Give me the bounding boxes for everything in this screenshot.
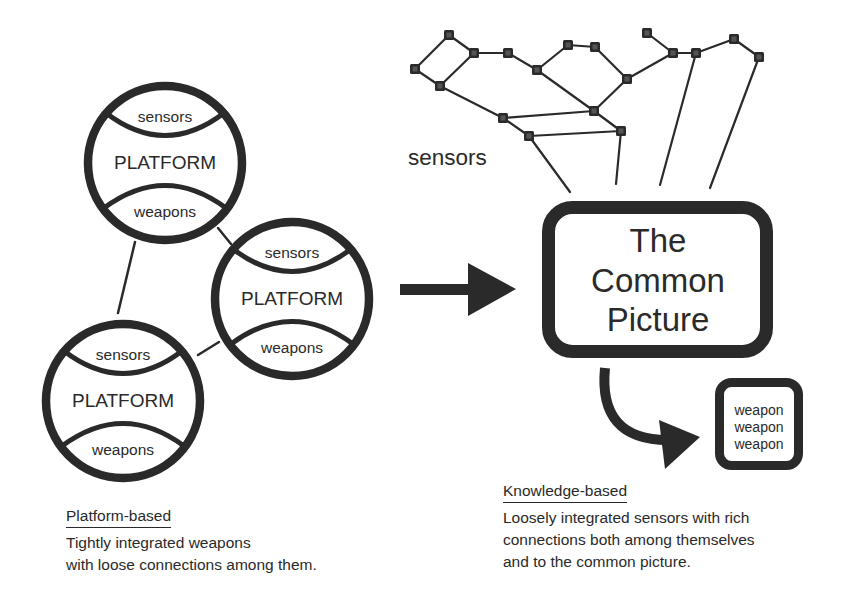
sensors-label: sensors bbox=[265, 244, 320, 261]
sensor-node-core bbox=[593, 45, 598, 50]
sensor-to-picture-link bbox=[710, 57, 759, 188]
sensor-node-core bbox=[535, 68, 540, 73]
sensor-node-core bbox=[625, 77, 630, 82]
sensor-link bbox=[537, 70, 594, 111]
weapon-line-3: weapon bbox=[733, 436, 783, 452]
common-picture-line-1: The bbox=[630, 222, 687, 259]
dispatch-arrow bbox=[604, 368, 700, 469]
caption-knowledge-based: Knowledge-based Loosely integrated senso… bbox=[503, 480, 755, 573]
sensor-node-core bbox=[447, 33, 452, 38]
sensors-label: sensors bbox=[96, 346, 151, 363]
connector-platform-1-3 bbox=[118, 242, 135, 313]
weapon-line-2: weapon bbox=[733, 419, 783, 435]
caption-body-line: connections both among themselves bbox=[503, 529, 755, 551]
weapon-box: weapon weapon weapon bbox=[720, 383, 799, 466]
caption-body-line: with loose connections among them. bbox=[66, 554, 317, 576]
sensor-link bbox=[529, 131, 621, 136]
sensor-node-core bbox=[619, 129, 624, 134]
caption-body-line: Loosely integrated sensors with rich bbox=[503, 507, 755, 529]
sensor-node-core bbox=[566, 43, 571, 48]
dispatch-arrow-shaft bbox=[604, 368, 668, 440]
sensor-node-core bbox=[413, 67, 418, 72]
connector-platform-1-2 bbox=[218, 228, 231, 244]
sensor-node-core bbox=[592, 109, 597, 114]
sensor-node-core bbox=[506, 51, 511, 56]
common-picture-line-2: Common bbox=[591, 262, 725, 299]
arrow-head bbox=[468, 263, 516, 316]
sensor-node-core bbox=[472, 51, 477, 56]
sensor-to-picture-link bbox=[660, 53, 696, 185]
connector-platform-2-3 bbox=[198, 342, 219, 355]
weapon-line-1: weapon bbox=[733, 402, 783, 418]
weapons-label: weapons bbox=[91, 441, 154, 458]
sensor-link bbox=[595, 47, 627, 79]
caption-heading: Knowledge-based bbox=[503, 481, 627, 503]
sensor-link bbox=[440, 53, 474, 86]
arrow-shaft bbox=[400, 284, 470, 295]
caption-body-line: and to the common picture. bbox=[503, 551, 755, 573]
platform-node-1: sensors PLATFORM weapons bbox=[88, 86, 242, 240]
sensor-node-core bbox=[694, 51, 699, 56]
weapons-label: weapons bbox=[133, 203, 196, 220]
sensor-link bbox=[594, 79, 627, 111]
common-picture-line-3: Picture bbox=[607, 301, 710, 338]
sensor-node-core bbox=[438, 84, 443, 89]
weapons-label: weapons bbox=[260, 339, 323, 356]
common-picture: The Common Picture bbox=[549, 208, 767, 352]
sensor-link bbox=[627, 53, 673, 79]
sensors-label: sensors bbox=[138, 108, 193, 125]
platform-label: PLATFORM bbox=[72, 390, 174, 411]
platform-label: PLATFORM bbox=[241, 288, 343, 309]
sensor-link bbox=[696, 39, 734, 53]
sensor-to-picture-link bbox=[616, 131, 621, 184]
sensor-node-core bbox=[645, 31, 650, 36]
caption-body-line: Tightly integrated weapons bbox=[66, 532, 317, 554]
caption-platform-based: Platform-based Tightly integrated weapon… bbox=[66, 505, 317, 576]
sensor-network-label: sensors bbox=[408, 145, 487, 170]
dispatch-arrow-head bbox=[659, 420, 700, 469]
sensor-link bbox=[440, 86, 503, 118]
platform-label: PLATFORM bbox=[114, 152, 216, 173]
platform-node-3: sensors PLATFORM weapons bbox=[46, 324, 200, 478]
transition-arrow bbox=[400, 263, 516, 316]
caption-heading: Platform-based bbox=[66, 506, 171, 528]
sensor-link bbox=[415, 35, 449, 69]
sensor-node-core bbox=[757, 55, 762, 60]
sensor-node-core bbox=[671, 51, 676, 56]
sensor-to-picture-link bbox=[529, 136, 570, 192]
sensor-node-core bbox=[527, 134, 532, 139]
sensor-node-core bbox=[501, 116, 506, 121]
sensor-node-core bbox=[732, 37, 737, 42]
sensor-link bbox=[503, 111, 594, 118]
platform-node-2: sensors PLATFORM weapons bbox=[215, 222, 369, 376]
